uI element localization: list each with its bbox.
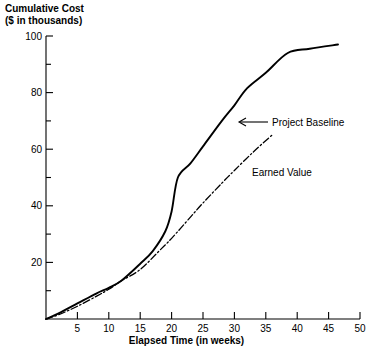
series-line-project-baseline (46, 44, 338, 319)
x-tick-label-30: 30 (229, 323, 241, 334)
y-tick-label-80: 80 (31, 87, 43, 98)
y-tick-label-20: 20 (31, 257, 43, 268)
x-axis-ticks (77, 312, 360, 319)
y-tick-label-60: 60 (31, 144, 43, 155)
x-tick-label-25: 25 (197, 323, 209, 334)
chart-container: Cumulative Cost($ in thousands) 100 80 6… (0, 0, 373, 355)
axis-lines (46, 36, 360, 319)
x-tick-label-15: 15 (135, 323, 147, 334)
y-tick-label-40: 40 (31, 200, 43, 211)
x-tick-label-35: 35 (260, 323, 272, 334)
annotation-label-project-baseline: Project Baseline (272, 117, 345, 128)
x-tick-label-20: 20 (166, 323, 178, 334)
x-tick-label-45: 45 (323, 323, 335, 334)
x-tick-label-10: 10 (103, 323, 115, 334)
y-axis-tick-labels: 100 80 60 40 20 (25, 31, 42, 268)
series-line-earned-value (46, 135, 272, 319)
y-tick-label-100: 100 (25, 31, 42, 42)
x-axis-tick-labels: 5 10 15 20 25 30 35 40 45 50 (75, 323, 366, 334)
x-tick-label-5: 5 (75, 323, 81, 334)
x-tick-label-40: 40 (292, 323, 304, 334)
annotation-project-baseline: Project Baseline (239, 117, 345, 128)
x-axis-title: Elapsed Time (in weeks) (0, 335, 373, 347)
chart-plot-area: 100 80 60 40 20 5 10 15 20 25 30 35 (0, 0, 373, 355)
annotation-earned-value: Earned Value (252, 167, 312, 178)
y-axis-ticks (46, 36, 53, 291)
annotation-label-earned-value: Earned Value (252, 167, 312, 178)
x-tick-label-50: 50 (354, 323, 366, 334)
